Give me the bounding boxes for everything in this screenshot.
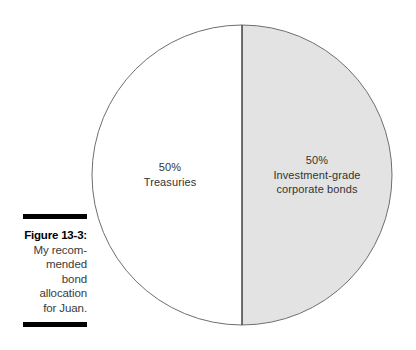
figure-caption-line-5: for Juan. bbox=[23, 301, 87, 316]
pie-slice-treasuries[interactable] bbox=[92, 25, 242, 325]
figure-caption-line-2: mended bbox=[23, 257, 87, 272]
pie-chart bbox=[92, 25, 392, 325]
pie-chart-svg bbox=[92, 25, 392, 325]
caption-rule-top bbox=[23, 214, 87, 219]
figure-caption-line-4: allocation bbox=[23, 286, 87, 301]
figure-caption-line-1: My recom- bbox=[23, 243, 87, 258]
figure-caption-line-3: bond bbox=[23, 272, 87, 287]
figure-caption-block: Figure 13-3: My recom- mended bond alloc… bbox=[23, 214, 87, 327]
figure-caption-label: Figure 13-3: bbox=[23, 228, 87, 243]
figure-container: 50% Treasuries 50% Investment-grade corp… bbox=[0, 0, 416, 350]
caption-rule-bottom bbox=[23, 322, 87, 327]
pie-slice-investment-grade-corporate-bonds[interactable] bbox=[242, 25, 392, 325]
figure-caption-text: Figure 13-3: My recom- mended bond alloc… bbox=[23, 228, 87, 316]
